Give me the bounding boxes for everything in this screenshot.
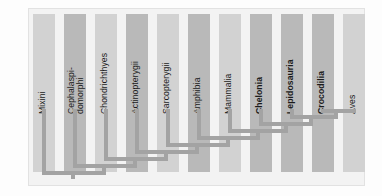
node-amniota-stem [256,129,260,136]
node-sarcopterygii-clade-stem [195,143,199,150]
branch-stem-actinopterygii [135,109,139,150]
taxon-label-actinopterygii: Actinopterygii [131,61,140,114]
branch-stem-sarcopterygii [166,109,170,143]
node-crocodilia-aves-cross [321,109,356,113]
branch-stem-chelonia [259,109,263,122]
branch-stem-amphibia [197,109,201,136]
branch-stem-chondrichthyes [104,109,108,157]
taxon-label-lepidosauria: Lepidosauria [286,59,295,114]
taxon-band-aves [343,14,365,172]
node-gnathostomata-stem [133,157,137,164]
root-stub [71,171,75,179]
branch-stem-mammalia [228,109,232,129]
taxon-label-mammalia: Mammalia [224,74,233,114]
node-tetrapoda-stem [226,136,230,143]
taxon-label-crocodilia: Crocodilia [317,71,326,114]
figure-plate: Mixini Cephalaspi- domorphi Chondrichthy… [28,8,365,186]
node-archosauria-cross [290,115,338,119]
node-reptilia-stem [284,122,288,129]
node-archosauria-stem [309,115,313,122]
taxon-label-chondrichthyes: Chondrichthyes [100,53,109,114]
taxon-label-cephalaspidomorphi: Cephalaspi- domorphi [67,67,86,114]
node-vertebrata-stem [102,164,106,171]
node-osteichthyes-stem [164,150,168,157]
branch-stem-mixini [42,109,46,171]
branch-stem-cephalaspidomorphi [73,109,77,164]
cladogram-figure: Mixini Cephalaspi- domorphi Chondrichthy… [0,0,382,196]
taxon-label-sarcopterygii: Sarcopterygii [162,63,171,114]
